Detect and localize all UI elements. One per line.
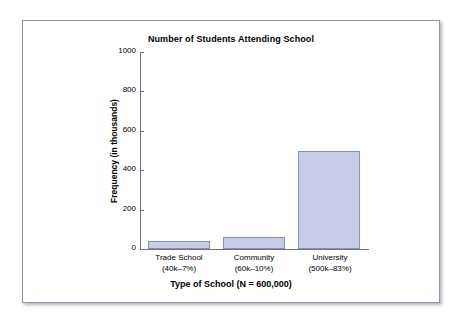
x-axis-line — [140, 249, 369, 250]
bar-community — [223, 237, 285, 249]
x-category-trade-school: Trade School (40k–7%) — [140, 253, 218, 274]
x-category-label-university: University — [312, 253, 347, 262]
y-tick-label-600: 600 — [123, 125, 136, 134]
x-category-label-community: Community — [234, 253, 274, 262]
figure-frame: Number of Students Attending School Freq… — [22, 20, 440, 303]
y-tick-label-200: 200 — [123, 204, 136, 213]
x-category-label-trade-school: Trade School — [155, 253, 202, 262]
y-tick-label-1000: 1000 — [118, 46, 136, 55]
x-category-sublabel-university: (500k–83%) — [290, 264, 370, 275]
y-axis-title: Frequency (in thousands) — [109, 53, 121, 249]
bar-university — [298, 151, 360, 249]
y-tick-label-800: 800 — [123, 85, 136, 94]
x-category-community: Community (60k–10%) — [215, 253, 293, 274]
y-tick-label-400: 400 — [123, 164, 136, 173]
x-category-university: University (500k–83%) — [290, 253, 370, 274]
chart-title: Number of Students Attending School — [23, 34, 439, 44]
x-category-sublabel-community: (60k–10%) — [215, 264, 293, 275]
y-tick-label-0: 0 — [132, 243, 136, 252]
bar-trade-school — [148, 241, 210, 249]
plot-area — [140, 53, 368, 249]
x-axis-title: Type of School (N = 600,000) — [23, 279, 439, 289]
x-category-sublabel-trade-school: (40k–7%) — [140, 264, 218, 275]
y-tick-0: 0 — [140, 249, 144, 250]
